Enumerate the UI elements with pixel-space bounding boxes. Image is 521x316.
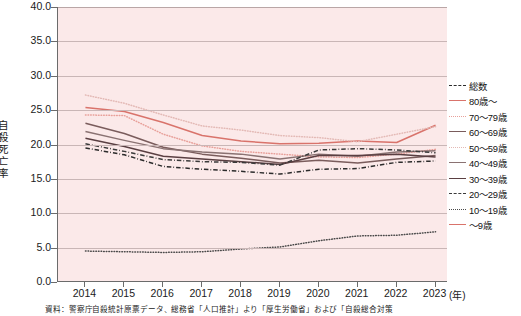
legend-swatch-icon <box>449 96 466 106</box>
y-axis-tick-label: 35.0 <box>3 35 51 46</box>
legend-swatch-icon <box>449 205 466 215</box>
source-note: 資料：警察庁自殺統計原票データ、総務省「人口推計」より「厚生労働省」および「自殺… <box>45 303 393 314</box>
legend-label: 50～59歳 <box>469 141 507 155</box>
legend-swatch-icon <box>449 189 466 199</box>
x-axis-tick-label: 2020 <box>296 287 340 299</box>
x-axis-tick-label: 2023 <box>413 287 457 299</box>
legend-label: 70～79歳 <box>469 110 507 124</box>
y-axis-tick-label: 25.0 <box>3 104 51 115</box>
x-axis-tick-label: 2017 <box>179 287 223 299</box>
legend-item-a09[interactable]: ～9歳 <box>449 218 521 234</box>
legend-item-total[interactable]: 総数 <box>449 78 521 94</box>
gridline <box>58 248 447 249</box>
y-axis-tick <box>51 145 57 146</box>
legend-label: 40～49歳 <box>469 156 507 170</box>
chart-root: 40.035.030.025.020.015.010.05.00.0 自殺死亡率… <box>0 0 521 316</box>
y-axis-title: 自殺死亡率 <box>0 120 10 180</box>
legend-item-a80[interactable]: 80歳～ <box>449 94 521 110</box>
legend-label: ～9歳 <box>469 218 492 232</box>
y-axis-tick <box>51 110 57 111</box>
gridline <box>58 145 447 146</box>
legend-item-a50[interactable]: 50～59歳 <box>449 140 521 156</box>
legend-label: 80歳～ <box>469 94 497 108</box>
legend-swatch-icon <box>449 127 466 137</box>
y-axis-tick <box>51 76 57 77</box>
legend-label: 60～69歳 <box>469 125 507 139</box>
gridline <box>58 213 447 214</box>
y-axis-tick <box>51 41 57 42</box>
y-axis-tick-label: 15.0 <box>3 173 51 184</box>
series-line <box>85 115 435 158</box>
legend-item-a40[interactable]: 40～49歳 <box>449 156 521 172</box>
legend: 総数80歳～70～79歳60～69歳50～59歳40～49歳30～39歳20～2… <box>449 78 521 233</box>
y-axis-tick <box>51 248 57 249</box>
gridline <box>58 76 447 77</box>
gridline <box>58 7 447 8</box>
legend-item-a30[interactable]: 30～39歳 <box>449 171 521 187</box>
y-axis-tick-label: 10.0 <box>3 207 51 218</box>
gridline <box>58 110 447 111</box>
gridline <box>58 41 447 42</box>
y-axis-tick-label: 5.0 <box>3 242 51 253</box>
legend-item-a60[interactable]: 60～69歳 <box>449 125 521 141</box>
legend-item-a10[interactable]: 10～19歳 <box>449 202 521 218</box>
y-axis-tick-label: 40.0 <box>3 1 51 12</box>
y-axis-tick <box>51 282 57 283</box>
legend-item-a70[interactable]: 70～79歳 <box>449 109 521 125</box>
y-axis-tick <box>51 7 57 8</box>
legend-label: 30～39歳 <box>469 172 507 186</box>
legend-swatch-icon <box>449 81 466 91</box>
y-axis-tick-label: 30.0 <box>3 70 51 81</box>
legend-swatch-icon <box>449 112 466 122</box>
legend-label: 20～29歳 <box>469 187 507 201</box>
legend-swatch-icon <box>449 143 466 153</box>
y-axis-tick <box>51 179 57 180</box>
x-axis-tick-label: 2016 <box>140 287 184 299</box>
legend-swatch-icon <box>449 158 466 168</box>
series-line <box>85 95 435 142</box>
x-axis-tick-label: 2019 <box>257 287 301 299</box>
series-line <box>85 232 435 253</box>
y-axis-tick-label: 0.0 <box>3 276 51 287</box>
x-axis-tick-label: 2018 <box>218 287 262 299</box>
gridline <box>58 179 447 180</box>
y-axis-tick-label: 20.0 <box>3 139 51 150</box>
legend-label: 10～19歳 <box>469 203 507 217</box>
x-axis-tick-label: 2022 <box>374 287 418 299</box>
x-axis-tick-label: 2015 <box>101 287 145 299</box>
x-axis-tick-label: 2021 <box>335 287 379 299</box>
legend-label: 総数 <box>469 79 487 93</box>
legend-item-a20[interactable]: 20～29歳 <box>449 187 521 203</box>
y-axis-tick <box>51 213 57 214</box>
x-axis-tick-label: 2014 <box>62 287 106 299</box>
legend-swatch-icon <box>449 220 466 230</box>
legend-swatch-icon <box>449 174 466 184</box>
plot-area <box>57 7 447 282</box>
